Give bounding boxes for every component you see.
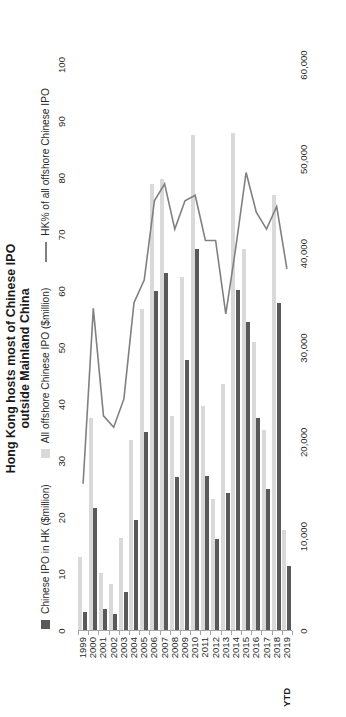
percent-axis-label: 40 <box>56 399 67 410</box>
category-tick <box>160 631 161 635</box>
value-axis-label: 60,000 <box>298 50 309 79</box>
percentage-line-path <box>83 173 287 484</box>
value-axis <box>292 65 293 631</box>
category-tick <box>231 631 232 635</box>
percent-axis-label: 60 <box>56 286 67 297</box>
category-tick <box>139 631 140 635</box>
legend-swatch-line-icon <box>45 242 47 262</box>
value-axis-label: 40,000 <box>298 239 309 268</box>
category-tick <box>251 631 252 635</box>
chart-figure: Hong Kong hosts most of Chinese IPO outs… <box>0 0 346 717</box>
percent-axis-label: 80 <box>56 173 67 184</box>
legend-item-bar-light: All offshore Chinese IPO ($million) <box>40 288 51 459</box>
category-tick <box>241 631 242 635</box>
legend-swatch-bar-light-icon <box>41 449 50 458</box>
percent-axis-label: 20 <box>56 512 67 523</box>
legend-label: Chinese IPO in HK ($million) <box>40 484 51 614</box>
category-tick <box>170 631 171 635</box>
chart-legend: Chinese IPO in HK ($million)All offshore… <box>40 0 51 717</box>
ytd-note: YTD <box>281 688 292 707</box>
percent-axis-label: 0 <box>56 628 67 633</box>
rotated-figure-wrapper: Hong Kong hosts most of Chinese IPO outs… <box>0 0 346 717</box>
percent-axis-label: 30 <box>56 456 67 467</box>
chart-title: Hong Kong hosts most of Chinese IPO outs… <box>4 0 32 717</box>
legend-label: All offshore Chinese IPO ($million) <box>40 288 51 444</box>
category-tick <box>210 631 211 635</box>
category-tick <box>180 631 181 635</box>
value-axis-label: 20,000 <box>298 428 309 457</box>
value-axis-label: 10,000 <box>298 522 309 551</box>
legend-item-bar-dark: Chinese IPO in HK ($million) <box>40 484 51 629</box>
category-tick <box>292 631 293 635</box>
value-axis-label: 0 <box>298 628 309 633</box>
percent-axis-label: 100 <box>56 57 67 73</box>
legend-swatch-bar-dark-icon <box>41 620 50 629</box>
category-tick <box>129 631 130 635</box>
category-tick <box>200 631 201 635</box>
plot-area: 1999200020012002200320042005200620072008… <box>78 65 292 631</box>
category-label-ytd: 2019 <box>281 637 292 673</box>
category-tick <box>78 631 79 635</box>
category-tick <box>109 631 110 635</box>
category-tick <box>272 631 273 635</box>
percent-axis-label: 70 <box>56 229 67 240</box>
category-tick <box>88 631 89 635</box>
percent-axis-label: 90 <box>56 116 67 127</box>
value-axis-label: 30,000 <box>298 333 309 362</box>
legend-label: HK% of all offshore Chinese IPO <box>40 88 51 236</box>
category-tick <box>282 631 283 635</box>
category-tick <box>98 631 99 635</box>
value-axis-label: 50,000 <box>298 145 309 174</box>
percentage-line-series <box>78 65 292 631</box>
category-tick <box>261 631 262 635</box>
percent-axis-label: 10 <box>56 569 67 580</box>
category-tick <box>190 631 191 635</box>
legend-item-line: HK% of all offshore Chinese IPO <box>40 88 51 262</box>
category-tick <box>149 631 150 635</box>
category-tick <box>221 631 222 635</box>
category-tick <box>119 631 120 635</box>
chart-header: Hong Kong hosts most of Chinese IPO outs… <box>0 0 62 717</box>
percent-axis-label: 50 <box>56 343 67 354</box>
